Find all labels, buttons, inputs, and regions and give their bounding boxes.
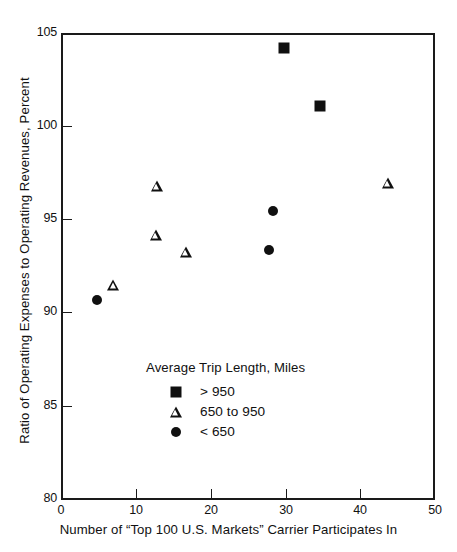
triangle-marker-icon — [170, 407, 182, 418]
data-point-circle — [268, 206, 278, 216]
scatter-chart-figure: 105 100 95 90 85 80 0 10 — [0, 0, 457, 552]
data-point-square — [314, 101, 325, 112]
x-tick-label-50: 50 — [415, 503, 455, 517]
x-tick-mark — [136, 489, 137, 500]
legend-title: Average Trip Length, Miles — [146, 360, 361, 376]
legend-swatch-triangle — [164, 402, 188, 422]
x-tick-label-text: 0 — [41, 503, 81, 517]
legend-entry-lt-650: < 650 — [146, 422, 361, 442]
x-tick-mark — [211, 489, 212, 500]
x-tick-label-0: 0 — [41, 503, 81, 517]
legend-entry-gt-950: > 950 — [146, 382, 361, 402]
legend-label-text: > 950 — [200, 382, 235, 402]
data-point-square — [279, 43, 290, 54]
x-tick-label-40: 40 — [340, 503, 380, 517]
data-point-circle — [264, 245, 274, 255]
data-point-triangle — [382, 177, 394, 188]
square-marker-icon — [171, 387, 182, 398]
data-point-triangle — [107, 280, 119, 291]
chart-legend: Average Trip Length, Miles > 950 650 to … — [146, 360, 361, 442]
x-tick-label-20: 20 — [191, 503, 231, 517]
circle-marker-icon — [171, 427, 181, 437]
legend-swatch-circle — [164, 422, 188, 442]
legend-swatch-square — [164, 382, 188, 402]
x-tick-label-text: 50 — [415, 503, 455, 517]
data-point-triangle — [150, 229, 162, 240]
y-tick-mark — [61, 406, 72, 407]
y-tick-label-text: 105 — [11, 26, 57, 39]
x-tick-label-text: 20 — [191, 503, 231, 517]
y-tick-mark — [61, 219, 72, 220]
legend-entry-650-to-950: 650 to 950 — [146, 402, 361, 422]
x-tick-label-text: 10 — [116, 503, 156, 517]
x-tick-label-text: 40 — [340, 503, 380, 517]
y-tick-mark — [61, 126, 72, 127]
y-axis-title: Ratio of Operating Expenses to Operating… — [17, 41, 32, 481]
y-tick-label-105: 105 — [0, 26, 57, 39]
x-tick-mark — [360, 489, 361, 500]
x-axis-title: Number of “Top 100 U.S. Markets” Carrier… — [0, 522, 457, 537]
y-tick-mark — [61, 33, 72, 34]
x-tick-label-10: 10 — [116, 503, 156, 517]
data-point-circle — [92, 295, 102, 305]
data-point-triangle — [180, 246, 192, 257]
x-tick-label-30: 30 — [266, 503, 306, 517]
data-point-triangle — [151, 181, 163, 192]
legend-label-text: < 650 — [200, 422, 235, 442]
x-tick-label-text: 30 — [266, 503, 306, 517]
y-tick-mark — [61, 312, 72, 313]
legend-label-text: 650 to 950 — [200, 402, 265, 422]
x-tick-mark — [286, 489, 287, 500]
